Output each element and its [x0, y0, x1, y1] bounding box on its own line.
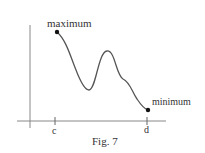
maximum-point	[55, 30, 59, 34]
tick-c-label: c	[52, 125, 56, 136]
figure-caption: Fig. 7	[92, 136, 118, 147]
minimum-point	[146, 108, 150, 112]
figure-diagram	[0, 0, 205, 153]
function-curve	[57, 32, 148, 110]
maximum-label: maximum	[47, 18, 92, 29]
minimum-label: minimum	[152, 96, 191, 107]
tick-d-label: d	[144, 124, 149, 135]
